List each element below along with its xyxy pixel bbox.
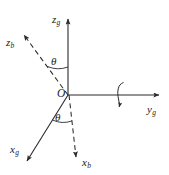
figure-canvas xyxy=(0,0,169,175)
coordinate-frame-figure: O zg yg xg zb xb θ θ xyxy=(0,0,169,175)
axis-label-z-ground-sub: g xyxy=(56,18,60,27)
axis-line-x-body xyxy=(69,95,76,157)
axis-label-y-ground: yg xyxy=(147,104,156,117)
axis-label-x-ground-sub: g xyxy=(15,148,19,157)
axis-line-x-ground xyxy=(27,95,68,161)
axis-label-x-ground: xg xyxy=(10,144,19,157)
axis-label-z-body-sub: b xyxy=(10,41,14,50)
axis-line-z-body xyxy=(24,35,68,95)
origin-label: O xyxy=(57,88,65,100)
axis-label-y-ground-sub: g xyxy=(152,108,156,117)
axis-label-z-body: zb xyxy=(6,37,14,50)
axis-label-z-ground: zg xyxy=(52,14,60,27)
axis-label-x-body: xb xyxy=(82,157,91,170)
angle-label-theta-lower: θ xyxy=(55,112,60,123)
angle-label-theta-upper: θ xyxy=(51,56,56,67)
axis-label-x-body-sub: b xyxy=(87,161,91,170)
